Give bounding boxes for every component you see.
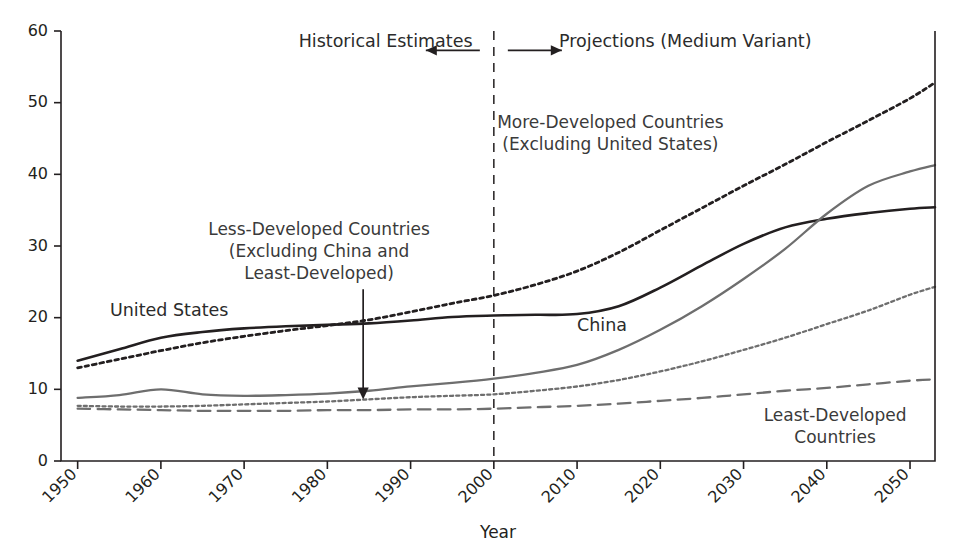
y-tick-label-10: 10 — [28, 379, 48, 398]
annotation-united-states: United States — [110, 300, 229, 320]
x-tick-label-2040: 2040 — [787, 464, 829, 506]
annotation-less-developed-line1: Less-Developed Countries — [208, 219, 430, 239]
x-axis-title: Year — [479, 522, 516, 542]
x-tick-label-2000: 2000 — [454, 464, 496, 506]
y-tick-label-0: 0 — [38, 451, 48, 470]
annotation-more-developed-line2: (Excluding United States) — [502, 134, 718, 154]
y-axis-tick-labels: 0102030405060 — [28, 21, 61, 470]
y-tick-label-60: 60 — [28, 21, 48, 40]
x-tick-label-2050: 2050 — [871, 464, 913, 506]
x-tick-label-1950: 1950 — [38, 464, 80, 506]
annotation-least-developed-line2: Countries — [794, 427, 876, 447]
annotation-less-developed-line2: (Excluding China and — [229, 241, 409, 261]
annotation-china: China — [577, 315, 627, 335]
y-tick-label-40: 40 — [28, 164, 48, 183]
y-tick-label-30: 30 — [28, 236, 48, 255]
y-tick-label-20: 20 — [28, 307, 48, 326]
chart-figure: 0102030405060 19501960197019801990200020… — [0, 0, 961, 558]
x-tick-label-2010: 2010 — [538, 464, 580, 506]
annotation-less-developed-line3: Least-Developed) — [244, 263, 394, 283]
annotation-least-developed-line1: Least-Developed — [764, 405, 907, 425]
x-tick-label-1980: 1980 — [288, 464, 330, 506]
x-tick-label-1970: 1970 — [205, 464, 247, 506]
annotation-more-developed-line1: More-Developed Countries — [497, 112, 724, 132]
x-tick-label-2030: 2030 — [704, 464, 746, 506]
annotation-projections: Projections (Medium Variant) — [559, 31, 811, 51]
x-tick-label-1960: 1960 — [121, 464, 163, 506]
plot-background — [61, 31, 935, 461]
x-axis-tick-labels: 1950196019701980199020002010202020302040… — [38, 461, 913, 507]
x-tick-label-1990: 1990 — [371, 464, 413, 506]
annotation-historical-estimates: Historical Estimates — [299, 31, 473, 51]
y-tick-label-50: 50 — [28, 92, 48, 111]
line-chart-svg: 0102030405060 19501960197019801990200020… — [0, 0, 961, 558]
x-tick-label-2020: 2020 — [621, 464, 663, 506]
